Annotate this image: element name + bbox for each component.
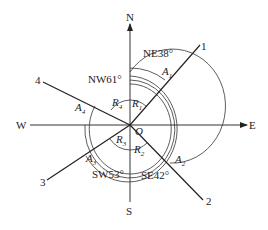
line-4-label: 4 [35,74,41,86]
reduced-r1: R1 [131,97,142,112]
origin-label: O [135,125,143,137]
reduced-r2: R2 [133,143,145,158]
bearing-2: SE42° [141,169,169,181]
north-label: N [126,11,134,23]
west-label: W [16,119,27,131]
bearing-3: SW53° [92,168,124,180]
line-2-label: 2 [206,195,212,207]
line-3-label: 3 [40,176,46,188]
line-1-label: 1 [201,40,207,52]
angle-a4: A4 [74,101,86,116]
arc-a3-right [86,76,177,182]
bearing-4: NW61° [88,73,122,85]
bearing-1: NE38° [143,47,173,59]
angle-a2: A2 [174,153,186,168]
arc-a2 [130,49,225,163]
reduced-r4: R4 [111,96,123,111]
angle-a1: A1 [161,65,172,80]
east-label: E [249,119,256,131]
south-label: S [126,205,132,217]
arc-a1 [130,68,165,80]
bearing-diagram: N S E W O 1 2 3 4 NE38° SE42° SW53° NW61… [0,0,268,230]
angle-a3: A3 [85,152,97,167]
